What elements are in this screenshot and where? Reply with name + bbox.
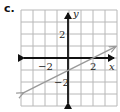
axis-labels: y x −2 2 2 −2: [38, 8, 115, 88]
x-axis-label: x: [109, 61, 115, 72]
y-tick-neg2: −2: [54, 77, 69, 88]
coordinate-plane: y x −2 2 2 −2: [0, 0, 120, 112]
y-tick-2: 2: [59, 29, 65, 40]
x-tick-2: 2: [90, 61, 96, 72]
x-tick-neg2: −2: [38, 61, 53, 72]
y-axis-label: y: [72, 8, 79, 19]
